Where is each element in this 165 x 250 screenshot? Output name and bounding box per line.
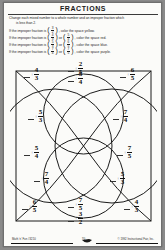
plus-sign: + [29,204,31,209]
paren-open-2: ( [63,42,65,46]
plus-sign: + [127,72,129,77]
paren-close: ) [55,42,57,46]
fraction-cell-top-center-low[interactable]: +54 [68,71,83,86]
answer-blank[interactable] [124,203,130,210]
denominator: 3 [120,179,125,186]
plus-sign: + [31,72,33,77]
plus-sign: + [75,66,77,71]
fraction-cell-top-right[interactable]: +65 [120,67,135,82]
cell-fraction: 65 [32,199,37,214]
rule-suffix: , color the space yellow. [59,29,95,33]
fraction-cell-mid-right-upper[interactable]: +74 [113,109,128,124]
fraction-cell-low-left[interactable]: +74 [34,171,49,186]
fraction-cell-bot-center-low[interactable]: +32 [68,211,83,226]
fraction-coloring-diagram: +43+25+54+65+53+74+54+75+74+53+65+75+32+… [10,59,157,231]
paren-open-2: ( [63,49,65,53]
fraction-cell-low-right[interactable]: +53 [110,171,125,186]
fraction-cell-top-left[interactable]: +43 [24,67,39,82]
paren-close: ) [55,49,57,53]
paren-close-2: ) [71,35,73,39]
rule-prefix: If the improper fraction is [9,43,46,47]
answer-blank[interactable] [24,149,30,156]
denominator: 4 [78,79,83,86]
paren-open: ( [47,49,49,53]
cell-fraction: 75 [127,145,132,160]
paren-close: ) [55,28,57,32]
paren-open: ( [47,42,49,46]
answer-blank[interactable] [24,71,30,78]
rule-prefix: If the improper fraction is [9,50,46,54]
paren-open: ( [47,35,49,39]
denominator: 4 [123,117,128,124]
or-separator: or [59,42,62,47]
fraction-cell-mid-left-upper[interactable]: +53 [28,109,43,124]
denominator: 4 [44,179,49,186]
rule-fraction-1: 7 4 [51,48,54,56]
cell-fraction: 43 [34,67,39,82]
rule-suffix: , color the space blue. [75,43,108,47]
answer-blank[interactable] [22,203,28,210]
rule-suffix: , color the space red. [75,36,107,40]
title-bar: FRACTIONS [8,5,158,15]
denominator: 3 [38,117,43,124]
plus-sign: + [41,176,43,181]
plus-sign: + [75,216,77,221]
answer-blank[interactable] [120,71,126,78]
denominator: 3 [134,207,139,214]
answer-blank[interactable] [113,113,119,120]
rule-prefix: If the improper fraction is [9,29,46,33]
plus-sign: + [35,114,37,119]
cell-fraction: 53 [120,171,125,186]
plus-sign: + [31,150,33,155]
plus-sign: + [124,150,126,155]
footer-rule-left [11,243,73,244]
paren-open-2: ( [63,35,65,39]
cell-fraction: 32 [78,211,83,226]
cell-fraction: 54 [78,71,83,86]
answer-blank[interactable] [34,175,40,182]
answer-blank[interactable] [68,201,74,208]
page-title: FRACTIONS [8,5,158,12]
plus-sign: + [117,176,119,181]
cell-fraction: 65 [130,67,135,82]
fraction-cell-mid-left-lower[interactable]: +54 [24,145,39,160]
paren-close: ) [55,35,57,39]
denominator: 4 [34,153,39,160]
paren-open: ( [47,28,49,32]
cell-fraction: 74 [123,109,128,124]
plus-sign: + [75,76,77,81]
denominator: 5 [32,207,37,214]
denominator: 3 [34,75,39,82]
instruction-line-1: Change each mixed number to a whole numb… [9,16,124,20]
paren-close-2: ) [71,49,73,53]
cell-fraction: 53 [38,109,43,124]
circle-right [55,89,157,203]
fraction-cell-bot-right[interactable]: +43 [124,199,139,214]
footer-rule-right [96,243,158,244]
circle-top [44,74,124,154]
rule-suffix: , color the space purple. [75,50,111,54]
or-separator: or [59,35,62,40]
answer-blank[interactable] [110,175,116,182]
instruction-line-2: is less than 2. [16,21,36,25]
fraction-cell-bot-left[interactable]: +65 [22,199,37,214]
answer-blank[interactable] [68,215,74,222]
paren-close-2: ) [71,42,73,46]
or-separator: or [59,49,62,54]
cell-fraction: 54 [34,145,39,160]
fraction-cell-mid-right-lower[interactable]: +75 [117,145,132,160]
color-rule-purple: If the improper fraction is ( 7 4 ) or (… [9,48,111,56]
denominator: 5 [127,153,132,160]
answer-blank[interactable] [68,75,74,82]
cell-fraction: 74 [44,171,49,186]
denominator: 5 [130,75,135,82]
footer-copyright: © 1992 Instructional Fair, Inc. [118,237,154,241]
plus-sign: + [120,114,122,119]
answer-blank[interactable] [28,113,34,120]
rule-prefix: If the improper fraction is [9,36,46,40]
worksheet-page: FRACTIONS Change each mixed number to a … [3,2,162,247]
plus-sign: + [75,202,77,207]
answer-blank[interactable] [117,149,123,156]
denominator: 2 [78,219,83,226]
cell-fraction: 43 [134,199,139,214]
